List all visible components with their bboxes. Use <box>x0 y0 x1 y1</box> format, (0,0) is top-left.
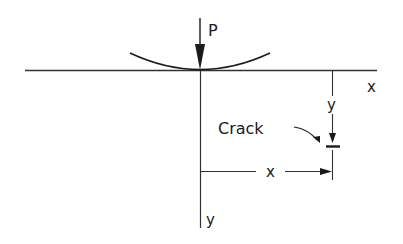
crack-offset-arrowhead-icon <box>320 168 332 175</box>
depth-axis-label: y <box>206 211 215 229</box>
load-label: P <box>208 21 218 40</box>
crack-depth-label: y <box>327 96 336 114</box>
crack-label: Crack <box>218 119 264 138</box>
crack-offset-label: x <box>266 163 275 181</box>
crack-leader-arrowhead-icon <box>313 136 320 143</box>
load-arrowhead-icon <box>195 44 205 70</box>
crack-diagram: P y x y Crack x <box>0 0 403 244</box>
crack-leader <box>294 127 317 140</box>
crack-depth-arrowhead-icon <box>329 133 336 143</box>
surface-axis-label: x <box>367 78 376 96</box>
